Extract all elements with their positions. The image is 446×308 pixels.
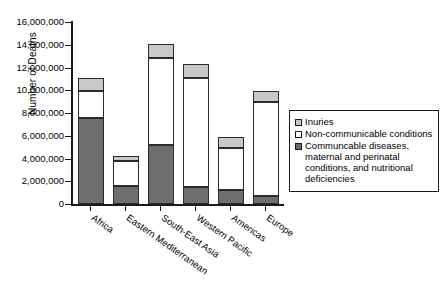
y-axis-tick-label: 2,000,000 bbox=[0, 176, 64, 186]
bar-south-east-asia[interactable] bbox=[148, 44, 174, 204]
stacked-bar-chart: Number of Deaths 16,000,00014,000,00012,… bbox=[0, 0, 446, 308]
x-axis-tick bbox=[125, 205, 126, 211]
bar-segment-injuries[interactable] bbox=[78, 78, 104, 92]
bar-segment-communicable[interactable] bbox=[148, 145, 174, 204]
legend-item-noncommunicable[interactable]: Non-communicable conditions bbox=[295, 128, 434, 139]
legend-label-injuries: Inuries bbox=[305, 116, 334, 127]
bar-segment-noncommunicable[interactable] bbox=[253, 102, 279, 196]
bar-segment-injuries[interactable] bbox=[148, 44, 174, 59]
y-axis-tick bbox=[65, 68, 72, 69]
legend-swatch-injuries-icon bbox=[295, 119, 302, 126]
bar-segment-noncommunicable[interactable] bbox=[218, 148, 244, 190]
legend: Inuries Non-communicable conditions Comm… bbox=[289, 110, 439, 192]
bar-europe[interactable] bbox=[253, 91, 279, 204]
bar-americas[interactable] bbox=[218, 137, 244, 204]
y-axis-tick-label: 12,000,000 bbox=[0, 63, 64, 73]
bar-segment-injuries[interactable] bbox=[253, 91, 279, 101]
legend-swatch-noncommunicable-icon bbox=[295, 131, 302, 138]
bar-segment-communicable[interactable] bbox=[218, 190, 244, 204]
y-axis-tick bbox=[65, 45, 72, 46]
y-axis-tick bbox=[65, 181, 72, 182]
legend-label-communicable: Communcable diseases, maternal and perin… bbox=[305, 140, 434, 184]
bar-segment-noncommunicable[interactable] bbox=[78, 91, 104, 117]
x-axis-label-europe: Europe bbox=[265, 212, 296, 239]
x-axis-tick bbox=[160, 205, 161, 211]
bar-segment-noncommunicable[interactable] bbox=[113, 161, 139, 186]
bar-western-pacific[interactable] bbox=[183, 64, 209, 204]
bar-segment-injuries[interactable] bbox=[183, 64, 209, 78]
x-axis-tick bbox=[230, 205, 231, 211]
y-axis-tick-label: 0 bbox=[0, 199, 64, 209]
y-axis-tick-labels: 16,000,00014,000,00012,000,00010,000,000… bbox=[0, 0, 64, 308]
y-axis-tick-label: 16,000,000 bbox=[0, 17, 64, 27]
x-axis-line bbox=[71, 204, 284, 206]
y-axis-tick bbox=[65, 136, 72, 137]
bar-segment-injuries[interactable] bbox=[218, 137, 244, 148]
legend-label-noncommunicable: Non-communicable conditions bbox=[305, 128, 432, 139]
y-axis-tick-label: 14,000,000 bbox=[0, 40, 64, 50]
x-axis-tick bbox=[195, 205, 196, 211]
bar-segment-communicable[interactable] bbox=[78, 118, 104, 204]
y-axis-tick-label: 10,000,000 bbox=[0, 85, 64, 95]
bar-eastern-mediterranean[interactable] bbox=[113, 156, 139, 204]
y-axis-tick bbox=[65, 22, 72, 23]
y-axis-tick bbox=[65, 204, 72, 205]
legend-item-communicable[interactable]: Communcable diseases, maternal and perin… bbox=[295, 140, 434, 184]
x-axis-tick bbox=[90, 205, 91, 211]
y-axis-tick-label: 8,000,000 bbox=[0, 108, 64, 118]
bar-segment-noncommunicable[interactable] bbox=[148, 58, 174, 144]
y-axis-tick bbox=[65, 159, 72, 160]
x-axis-label-africa: Africa bbox=[89, 212, 115, 235]
bar-segment-injuries[interactable] bbox=[113, 156, 139, 161]
bar-segment-communicable[interactable] bbox=[253, 196, 279, 204]
y-axis-tick bbox=[65, 113, 72, 114]
bar-segment-noncommunicable[interactable] bbox=[183, 78, 209, 187]
bar-segment-communicable[interactable] bbox=[183, 187, 209, 204]
bar-segment-communicable[interactable] bbox=[113, 186, 139, 204]
y-axis-tick-label: 4,000,000 bbox=[0, 154, 64, 164]
legend-swatch-communicable-icon bbox=[295, 143, 302, 150]
y-axis-tick bbox=[65, 90, 72, 91]
bar-africa[interactable] bbox=[78, 78, 104, 204]
x-axis-tick bbox=[265, 205, 266, 211]
y-axis-tick-label: 6,000,000 bbox=[0, 131, 64, 141]
legend-item-injuries[interactable]: Inuries bbox=[295, 116, 434, 127]
plot-area bbox=[72, 22, 283, 204]
